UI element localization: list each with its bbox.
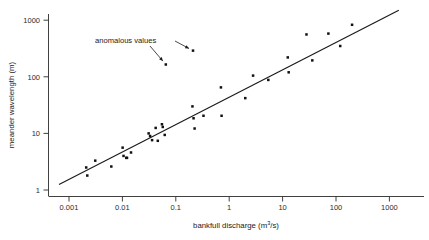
x-tick-label: 10 (278, 203, 286, 212)
data-point (202, 115, 205, 118)
data-point (154, 127, 157, 129)
x-tick-label: 0.1 (171, 203, 181, 212)
plot-canvas: 1101001000 0.0010.010.11101001000 anomal… (0, 0, 429, 240)
data-point (85, 166, 88, 169)
data-point (305, 33, 308, 36)
data-point (110, 165, 113, 168)
y-tick-label: 10 (32, 129, 40, 138)
data-point (287, 56, 290, 59)
y-tick-marks (44, 20, 49, 190)
data-point (130, 151, 133, 154)
x-tick-label: 1 (227, 203, 231, 212)
data-point (244, 97, 247, 100)
data-point (192, 117, 195, 120)
data-point (220, 115, 223, 118)
x-tick-labels: 0.0010.010.11101001000 (60, 203, 398, 212)
data-point (252, 74, 255, 77)
data-point (162, 126, 165, 129)
x-axis: 0.0010.010.11101001000 (49, 197, 425, 213)
data-point (191, 105, 194, 108)
y-tick-label: 1 (36, 186, 40, 195)
x-tick-label: 0.01 (115, 203, 130, 212)
y-axis-title: meander wavelength (m) (7, 61, 16, 148)
data-point (327, 32, 330, 35)
data-point (86, 174, 89, 177)
y-tick-label: 1000 (23, 16, 40, 25)
data-point (121, 146, 124, 149)
anomalous-values-annotation: anomalous values (95, 36, 189, 61)
data-point (149, 135, 152, 138)
data-point (165, 63, 168, 66)
data-point (287, 71, 290, 74)
x-axis-title-main: bankfull discharge (m (193, 221, 267, 230)
data-point (192, 49, 195, 52)
data-point (161, 123, 164, 126)
x-tick-label: 0.001 (60, 203, 79, 212)
x-tick-marks (69, 197, 389, 202)
x-tick-label: 100 (330, 203, 343, 212)
meander-wavelength-scatter-figure: 1101001000 0.0010.010.11101001000 anomal… (0, 0, 429, 240)
data-point (122, 155, 125, 158)
x-tick-label: 1000 (381, 203, 398, 212)
data-point (311, 59, 314, 62)
data-point (94, 159, 97, 162)
data-point (339, 45, 342, 48)
data-point (163, 134, 166, 137)
data-point (220, 86, 223, 89)
data-point (147, 132, 150, 135)
y-tick-label: 100 (27, 73, 40, 82)
x-axis-title-tail: /s) (270, 221, 279, 230)
annotation-label: anomalous values (95, 36, 156, 45)
y-tick-labels: 1101001000 (23, 16, 40, 195)
data-point (157, 140, 160, 143)
data-point (126, 157, 129, 160)
x-axis-title: bankfull discharge (m3/s) (193, 220, 279, 230)
data-point (193, 127, 196, 129)
data-point (351, 24, 354, 27)
data-point (151, 139, 154, 142)
data-points (85, 24, 353, 177)
data-point (267, 79, 270, 82)
y-axis: 1101001000 (23, 14, 48, 196)
